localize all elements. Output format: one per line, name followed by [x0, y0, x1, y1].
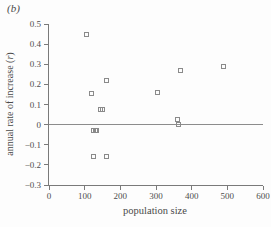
x-tick [263, 186, 264, 190]
y-tick [44, 144, 48, 145]
data-point-marker [221, 64, 226, 69]
data-point-marker [104, 78, 109, 83]
y-axis-title-suffix: ) [4, 52, 15, 55]
y-tick-label: −0.2 [5, 160, 41, 170]
y-axis-title: annual rate of increase (r) [4, 52, 15, 155]
y-tick [44, 44, 48, 45]
x-tick [227, 186, 228, 190]
x-tick-label: 400 [177, 191, 207, 201]
x-tick [84, 186, 85, 190]
x-axis-title: population size [48, 205, 262, 216]
y-tick-label: 0.5 [5, 19, 41, 29]
x-tick-label: 0 [34, 191, 64, 201]
x-tick [156, 186, 157, 190]
data-point-marker [155, 90, 160, 95]
y-axis-title-prefix: annual rate of increase ( [4, 60, 15, 156]
data-point-marker [91, 154, 96, 159]
data-point-marker [104, 154, 109, 159]
data-point-marker [100, 107, 105, 112]
data-point-marker [94, 128, 99, 133]
x-tick [191, 186, 192, 190]
data-point-marker [178, 68, 183, 73]
data-point-marker [89, 91, 94, 96]
scatter-plot-figure: (b) 0.50.40.30.20.10−0.1−0.2−0.301002003… [0, 0, 271, 227]
data-point-marker [176, 122, 181, 127]
y-tick [44, 104, 48, 105]
y-tick [44, 124, 48, 125]
y-tick [44, 185, 48, 186]
y-tick [44, 64, 48, 65]
x-tick [120, 186, 121, 190]
x-tick-label: 200 [105, 191, 135, 201]
y-tick [44, 164, 48, 165]
x-tick [49, 186, 50, 190]
x-tick-label: 500 [212, 191, 242, 201]
zero-reference-line [49, 124, 263, 125]
x-tick-label: 300 [141, 191, 171, 201]
y-axis-title-variable: r [4, 56, 15, 60]
y-tick-label: −0.3 [5, 180, 41, 190]
panel-label: (b) [7, 2, 20, 14]
y-tick [44, 84, 48, 85]
plot-area: 0.50.40.30.20.10−0.1−0.2−0.3010020030040… [48, 24, 263, 186]
y-tick [44, 24, 48, 25]
data-point-marker [84, 32, 89, 37]
x-tick-label: 100 [70, 191, 100, 201]
x-tick-label: 600 [248, 191, 271, 201]
y-tick-label: 0.4 [5, 39, 41, 49]
